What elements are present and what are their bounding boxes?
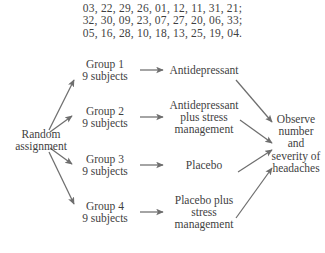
- group-2-name: Group 2: [68, 105, 142, 117]
- group-3-size: 9 subjects: [68, 165, 142, 177]
- treatment-2-line-3: management: [163, 123, 245, 135]
- outcome-line-5: headaches: [267, 162, 325, 174]
- node-group-1: Group 1 9 subjects: [68, 58, 142, 82]
- group-1-size: 9 subjects: [68, 70, 142, 82]
- group-1-name: Group 1: [68, 58, 142, 70]
- treatment-4-line-2: stress: [159, 206, 249, 218]
- node-group-4: Group 4 9 subjects: [68, 200, 142, 224]
- node-treatment-4: Placebo plus stress management: [159, 194, 249, 231]
- node-treatment-2: Antidepressant plus stress management: [163, 99, 245, 136]
- node-treatment-1: Antidepressant: [163, 64, 245, 76]
- random-assignment-line-2: assignment: [2, 140, 80, 152]
- treatment-2-line-2: plus stress: [163, 111, 245, 123]
- node-random-assignment: Random assignment: [2, 128, 80, 152]
- treatment-4-line-3: management: [159, 218, 249, 230]
- outcome-line-4: severity of: [267, 150, 325, 162]
- outcome-line-2: number: [267, 125, 325, 137]
- group-2-size: 9 subjects: [68, 117, 142, 129]
- treatment-1-line-1: Antidepressant: [163, 64, 245, 76]
- group-4-name: Group 4: [68, 200, 142, 212]
- random-digits-line-1: 03, 22, 29, 26, 01, 12, 11, 31, 21;: [0, 2, 325, 14]
- figure-canvas: 03, 22, 29, 26, 01, 12, 11, 31, 21; 32, …: [0, 0, 325, 253]
- outcome-line-3: and: [267, 137, 325, 149]
- node-treatment-3: Placebo: [163, 159, 245, 171]
- random-digits-line-3: 05, 16, 28, 10, 18, 13, 25, 19, 04.: [0, 27, 325, 39]
- node-outcome: Observe number and severity of headaches: [267, 113, 325, 174]
- node-group-2: Group 2 9 subjects: [68, 105, 142, 129]
- treatment-4-line-1: Placebo plus: [159, 194, 249, 206]
- random-assignment-line-1: Random: [2, 128, 80, 140]
- treatment-3-line-1: Placebo: [163, 159, 245, 171]
- group-4-size: 9 subjects: [68, 212, 142, 224]
- node-group-3: Group 3 9 subjects: [68, 153, 142, 177]
- random-digits-line-2: 32, 30, 09, 23, 07, 27, 20, 06, 33;: [0, 14, 325, 26]
- random-digits-block: 03, 22, 29, 26, 01, 12, 11, 31, 21; 32, …: [0, 2, 325, 39]
- treatment-2-line-1: Antidepressant: [163, 99, 245, 111]
- group-3-name: Group 3: [68, 153, 142, 165]
- outcome-line-1: Observe: [267, 113, 325, 125]
